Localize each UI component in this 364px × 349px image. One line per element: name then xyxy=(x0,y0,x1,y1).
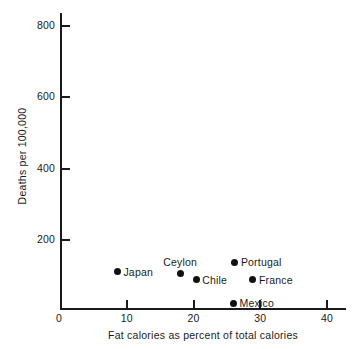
data-point-label: Mexico xyxy=(240,298,274,309)
x-axis-tick-label: 0 xyxy=(56,313,62,324)
y-axis-tick xyxy=(62,25,70,27)
data-point-marker[interactable] xyxy=(230,300,237,307)
x-axis-tick-label: 20 xyxy=(174,313,214,324)
y-axis-tick-label-wrap: 800 xyxy=(0,26,55,27)
x-axis-tick-label: 40 xyxy=(307,313,347,324)
data-point-marker[interactable] xyxy=(114,268,121,275)
y-axis-title: Deaths per 100,000 xyxy=(16,76,28,236)
y-axis-tick xyxy=(62,168,70,170)
data-point-label: Portugal xyxy=(241,257,282,268)
data-point-marker[interactable] xyxy=(231,259,238,266)
y-axis-line xyxy=(60,13,62,310)
x-axis-tick xyxy=(193,300,195,308)
data-point-label: France xyxy=(259,275,293,286)
data-point-label: Japan xyxy=(123,267,153,278)
x-axis-title: Fat calories as percent of total calorie… xyxy=(60,329,346,341)
x-axis-tick xyxy=(126,300,128,308)
data-point-label: Ceylon xyxy=(163,257,197,268)
y-axis-tick-label: 800 xyxy=(9,20,55,31)
data-point-marker[interactable] xyxy=(193,276,200,283)
y-axis-tick-label-wrap: 200 xyxy=(0,240,55,241)
data-point-label: Chile xyxy=(202,275,227,286)
scatter-chart-figure: 200400600800010203040JapanCeylonChilePor… xyxy=(0,0,364,349)
x-axis-tick xyxy=(326,300,328,308)
x-axis-tick-label: 30 xyxy=(240,313,280,324)
x-axis-tick-label: 10 xyxy=(107,313,147,324)
y-axis-tick xyxy=(62,96,70,98)
x-axis-line xyxy=(60,308,346,310)
data-point-marker[interactable] xyxy=(249,276,256,283)
data-point-marker[interactable] xyxy=(177,270,184,277)
y-axis-tick xyxy=(62,239,70,241)
